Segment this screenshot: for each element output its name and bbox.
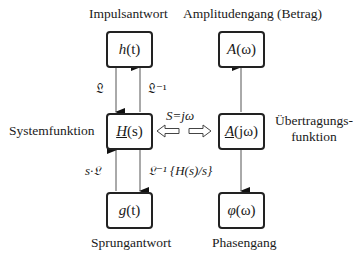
node-Ajw-fn: A (225, 123, 234, 140)
edge-label-inverse-laplace: 𝔏⁻¹ (148, 82, 167, 95)
node-g-fn: g (119, 202, 127, 219)
hollow-arrow-right (189, 125, 211, 137)
node-phi-fn: φ (227, 202, 235, 219)
edge-label-s-laplace: s·𝔏 (85, 164, 101, 177)
node-H-arg: (s) (127, 123, 143, 140)
node-g-arg: (t) (126, 202, 140, 219)
label-transfer-function: Übertragungs- funktion (273, 114, 355, 143)
node-Ajw-arg: (jω) (234, 123, 258, 140)
edge-label-substitution: S=jω (166, 109, 194, 122)
label-impulse-response: Impulsantwort (89, 7, 168, 21)
label-transfer-function-line1: Übertragungs- (273, 114, 355, 128)
node-step-response: g(t) (106, 192, 153, 229)
node-transfer-function: A(jω) (218, 113, 265, 150)
node-A-fn: A (227, 41, 236, 58)
node-system-function: H(s) (106, 113, 153, 150)
label-step-response: Sprungantwort (91, 236, 171, 250)
node-h-fn: h (119, 41, 127, 58)
label-system-function: Systemfunktion (9, 124, 95, 138)
label-transfer-function-line2: funktion (273, 130, 355, 144)
label-amplitude-response: Amplitudengang (Betrag) (183, 7, 322, 21)
label-phase-response: Phasengang (212, 236, 277, 250)
node-h-arg: (t) (126, 41, 140, 58)
node-impulse-response: h(t) (106, 31, 153, 68)
node-A-arg: (ω) (236, 41, 256, 58)
edge-label-inverse-laplace-step: 𝔏⁻¹ {H(s)/s} (148, 164, 212, 177)
node-H-fn: H (116, 123, 127, 140)
node-phase-response: φ(ω) (218, 192, 265, 229)
node-phi-arg: (ω) (236, 202, 256, 219)
edge-label-laplace: 𝔏 (96, 82, 104, 95)
hollow-arrow-left (157, 125, 179, 137)
node-amplitude-response: A(ω) (218, 31, 265, 68)
